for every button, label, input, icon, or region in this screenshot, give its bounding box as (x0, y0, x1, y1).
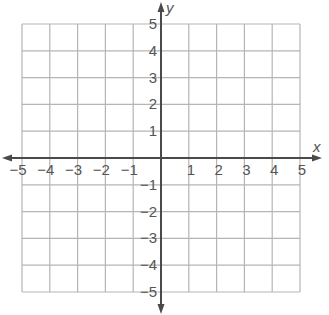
x-axis-arrow-right-icon (312, 155, 322, 162)
x-tick-label: −1 (121, 161, 138, 178)
y-tick-label: 3 (149, 69, 157, 86)
y-tick-label: −2 (140, 203, 157, 220)
x-tick-label: −5 (9, 161, 26, 178)
y-tick-label: −3 (140, 229, 157, 246)
y-tick-label: 1 (149, 122, 157, 139)
x-tick-label: 2 (214, 161, 222, 178)
x-tick-label: 3 (242, 161, 250, 178)
x-tick-label: −2 (93, 161, 110, 178)
x-tick-label: −4 (37, 161, 54, 178)
y-tick-label: −1 (140, 176, 157, 193)
y-tick-label: 2 (149, 95, 157, 112)
coordinate-plane: x y −5−4−3−2−112345 54321−1−2−3−4−5 (0, 0, 329, 315)
y-tick-label: 4 (149, 42, 157, 59)
x-tick-label: 5 (298, 161, 306, 178)
x-tick-labels: −5−4−3−2−112345 (9, 161, 306, 178)
y-tick-label: 5 (149, 15, 157, 32)
x-tick-label: −3 (65, 161, 82, 178)
y-axis-arrow-down-icon (158, 304, 165, 314)
y-axis-arrow-up-icon (158, 2, 165, 12)
y-tick-label: −4 (140, 256, 157, 273)
x-tick-label: 4 (270, 161, 278, 178)
x-axis-label: x (312, 138, 321, 155)
y-axis-label: y (165, 0, 175, 16)
x-tick-label: 1 (187, 161, 195, 178)
y-tick-label: −5 (140, 283, 157, 300)
